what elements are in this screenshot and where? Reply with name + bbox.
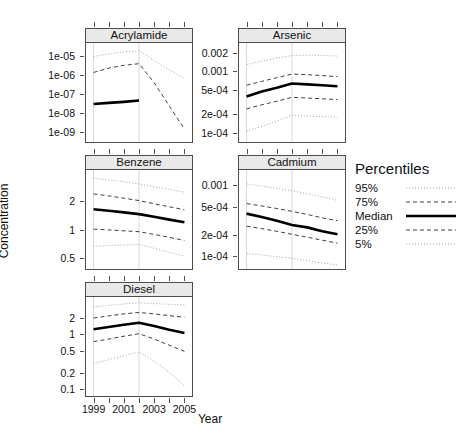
y-tick-mark — [233, 235, 237, 236]
tick-mark — [184, 22, 185, 27]
tick-mark — [307, 22, 308, 27]
tick-mark — [169, 149, 170, 154]
x-tick-mark — [139, 398, 140, 403]
tick-mark — [307, 149, 308, 154]
legend-entries: 95%75%Median25%5% — [355, 181, 470, 251]
tick-mark — [139, 22, 140, 27]
y-axis-tick-label: 1e-08 — [27, 108, 75, 119]
y-tick-mark — [80, 389, 84, 390]
y-tick-mark — [80, 201, 84, 202]
y-tick-mark — [80, 230, 84, 231]
y-tick-mark — [80, 334, 84, 335]
panel-top-ticks — [239, 22, 345, 27]
tick-mark — [337, 22, 338, 27]
panel-title: Arsenic — [273, 30, 311, 42]
x-tick-mark — [109, 398, 110, 403]
tick-mark — [247, 22, 248, 27]
tick-mark — [322, 149, 323, 154]
legend-entry: 95% — [355, 181, 470, 195]
panel-arsenic: Arsenic — [238, 28, 346, 143]
panel-top-ticks — [86, 276, 192, 281]
y-axis-tick-label: 1e-07 — [27, 89, 75, 100]
y-tick-mark — [233, 53, 237, 54]
panel-plot-area — [238, 170, 346, 270]
tick-mark — [124, 276, 125, 281]
panel-top-ticks — [86, 149, 192, 154]
y-axis-tick-label: 2e-04 — [180, 229, 228, 240]
tick-mark — [124, 149, 125, 154]
panel-plot-area — [85, 170, 193, 270]
tick-mark — [109, 276, 110, 281]
legend-label: 5% — [355, 238, 405, 250]
panel-plot-area — [238, 43, 346, 143]
legend-entry: 25% — [355, 223, 470, 237]
panel-benzene: Benzene — [85, 155, 193, 270]
tick-mark — [154, 22, 155, 27]
panel-diesel: Diesel — [85, 282, 193, 397]
y-axis-tick-label: 0.001 — [180, 180, 228, 191]
tick-mark — [94, 22, 95, 27]
legend-entry: Median — [355, 209, 470, 223]
y-tick-mark — [233, 133, 237, 134]
tick-mark — [109, 22, 110, 27]
tick-mark — [124, 22, 125, 27]
panel-strip-label: Diesel — [85, 282, 193, 297]
y-axis-tick-label: 1 — [27, 329, 75, 340]
legend-line-sample — [405, 224, 457, 236]
panel-plot-area — [85, 297, 193, 397]
y-tick-mark — [80, 373, 84, 374]
y-tick-mark — [233, 90, 237, 91]
y-axis-label: Concentration — [0, 184, 11, 259]
y-axis-tick-label: 0.002 — [180, 48, 228, 59]
y-tick-mark — [80, 258, 84, 259]
tick-mark — [322, 22, 323, 27]
panel-strip-label: Arsenic — [238, 28, 346, 43]
tick-mark — [154, 149, 155, 154]
tick-mark — [277, 22, 278, 27]
tick-mark — [262, 22, 263, 27]
legend-line-sample — [405, 238, 457, 250]
legend-line-sample — [405, 196, 457, 208]
y-tick-mark — [80, 113, 84, 114]
panel-title: Cadmium — [267, 157, 316, 169]
panel-cadmium: Cadmium — [238, 155, 346, 270]
y-axis-tick-label: 2 — [27, 196, 75, 207]
y-axis-tick-label: 1e-09 — [27, 127, 75, 138]
y-axis-tick-label: 0.5 — [27, 346, 75, 357]
panel-top-ticks — [86, 22, 192, 27]
y-axis-tick-label: 1e-04 — [180, 251, 228, 262]
legend-label: 25% — [355, 224, 405, 236]
y-axis-tick-label: 1e-06 — [27, 69, 75, 80]
y-axis-tick-label: 0.5 — [27, 253, 75, 264]
y-tick-mark — [233, 256, 237, 257]
legend-line-sample — [405, 182, 457, 194]
tick-mark — [337, 149, 338, 154]
panel-title: Acrylamide — [111, 30, 168, 42]
y-axis-tick-label: 5e-04 — [180, 201, 228, 212]
tick-mark — [292, 22, 293, 27]
y-tick-mark — [233, 71, 237, 72]
x-axis-label: Year — [0, 412, 420, 426]
tick-mark — [154, 276, 155, 281]
y-axis-tick-label: 2 — [27, 313, 75, 324]
legend: Percentiles 95%75%Median25%5% — [355, 160, 470, 251]
y-tick-mark — [233, 114, 237, 115]
y-axis-tick-label: 1 — [27, 224, 75, 235]
y-tick-mark — [233, 185, 237, 186]
y-tick-mark — [80, 56, 84, 57]
tick-mark — [139, 276, 140, 281]
legend-label: Median — [355, 210, 405, 222]
tick-mark — [262, 149, 263, 154]
tick-mark — [292, 149, 293, 154]
panel-title: Diesel — [123, 284, 155, 296]
tick-mark — [94, 276, 95, 281]
panel-strip-label: Acrylamide — [85, 28, 193, 43]
panel-acrylamide: Acrylamide — [85, 28, 193, 143]
y-axis-tick-label: 5e-04 — [180, 85, 228, 96]
legend-label: 95% — [355, 182, 405, 194]
legend-label: 75% — [355, 196, 405, 208]
y-axis-tick-label: 0.001 — [180, 66, 228, 77]
legend-entry: 75% — [355, 195, 470, 209]
y-axis-tick-label: 0.1 — [27, 384, 75, 395]
y-axis-tick-label: 0.2 — [27, 367, 75, 378]
